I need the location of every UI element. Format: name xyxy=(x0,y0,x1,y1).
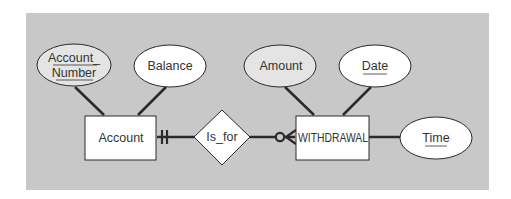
attribute-amount-label: Amount xyxy=(259,59,303,73)
attribute-balance-label: Balance xyxy=(147,59,192,73)
diagram-background xyxy=(26,13,489,190)
attribute-balance: Balance xyxy=(134,45,206,87)
entity-withdrawal-label: WITHDRAWAL xyxy=(298,131,368,145)
attribute-date-label: Date xyxy=(362,59,388,73)
attribute-date: Date xyxy=(339,45,411,87)
attribute-account-number-line1: Account_ xyxy=(48,51,101,65)
relationship-is-for-label: Is_for xyxy=(206,130,237,144)
attribute-account-number-line2: Number xyxy=(52,66,96,80)
attribute-time: Time xyxy=(400,117,472,159)
attribute-time-label: Time xyxy=(422,131,449,145)
attribute-amount: Amount xyxy=(244,45,316,87)
entity-account-label: Account xyxy=(98,131,144,145)
er-diagram: Account_ Number Balance Amount Date Time… xyxy=(0,0,511,199)
entity-account: Account xyxy=(85,116,156,160)
entity-withdrawal: WITHDRAWAL xyxy=(296,116,369,160)
attribute-account-number: Account_ Number xyxy=(37,44,111,86)
